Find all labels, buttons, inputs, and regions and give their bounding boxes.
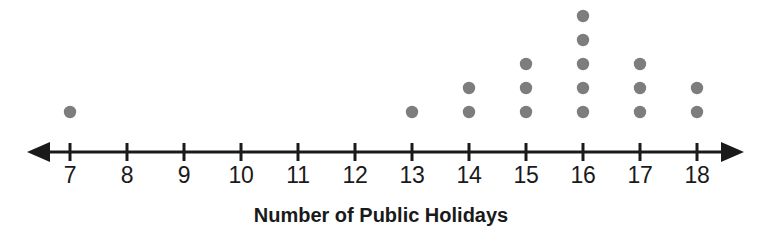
data-dots bbox=[64, 10, 703, 118]
data-dot-18-2 bbox=[691, 82, 703, 94]
tick-label-11: 11 bbox=[286, 162, 309, 188]
data-dot-16-4 bbox=[577, 34, 589, 46]
data-dot-14-1 bbox=[463, 106, 475, 118]
data-dot-18-1 bbox=[691, 106, 703, 118]
right-arrowhead bbox=[721, 142, 744, 162]
axis-title: Number of Public Holidays bbox=[254, 204, 508, 226]
data-dot-16-3 bbox=[577, 58, 589, 70]
tick-label-10: 10 bbox=[229, 162, 254, 188]
data-dot-15-1 bbox=[520, 106, 532, 118]
left-arrowhead bbox=[27, 142, 50, 162]
data-dot-15-2 bbox=[520, 82, 532, 94]
dot-plot-figure: 789101112131415161718 Number of Public H… bbox=[0, 0, 762, 241]
data-dot-17-2 bbox=[634, 82, 646, 94]
tick-label-16: 16 bbox=[571, 162, 596, 188]
data-dot-17-3 bbox=[634, 58, 646, 70]
tick-label-13: 13 bbox=[400, 162, 425, 188]
data-dot-13-1 bbox=[406, 106, 418, 118]
tick-label-12: 12 bbox=[343, 162, 368, 188]
data-dot-16-2 bbox=[577, 82, 589, 94]
data-dot-14-2 bbox=[463, 82, 475, 94]
tick-label-18: 18 bbox=[685, 162, 710, 188]
tick-label-14: 14 bbox=[457, 162, 482, 188]
number-line-axis bbox=[27, 142, 744, 162]
tick-label-17: 17 bbox=[628, 162, 653, 188]
data-dot-16-5 bbox=[577, 10, 589, 22]
tick-label-15: 15 bbox=[514, 162, 539, 188]
tick-label-9: 9 bbox=[178, 162, 191, 188]
data-dot-7-1 bbox=[64, 106, 76, 118]
dot-plot-canvas: 789101112131415161718 Number of Public H… bbox=[0, 0, 762, 241]
data-dot-15-3 bbox=[520, 58, 532, 70]
data-dot-16-1 bbox=[577, 106, 589, 118]
tick-label-8: 8 bbox=[121, 162, 134, 188]
tick-label-7: 7 bbox=[64, 162, 77, 188]
data-dot-17-1 bbox=[634, 106, 646, 118]
axis-tick-labels: 789101112131415161718 bbox=[64, 162, 710, 188]
